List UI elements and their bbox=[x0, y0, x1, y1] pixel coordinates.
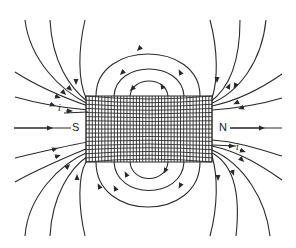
solenoid-winding bbox=[86, 96, 212, 162]
solenoid-field-diagram bbox=[0, 0, 296, 248]
